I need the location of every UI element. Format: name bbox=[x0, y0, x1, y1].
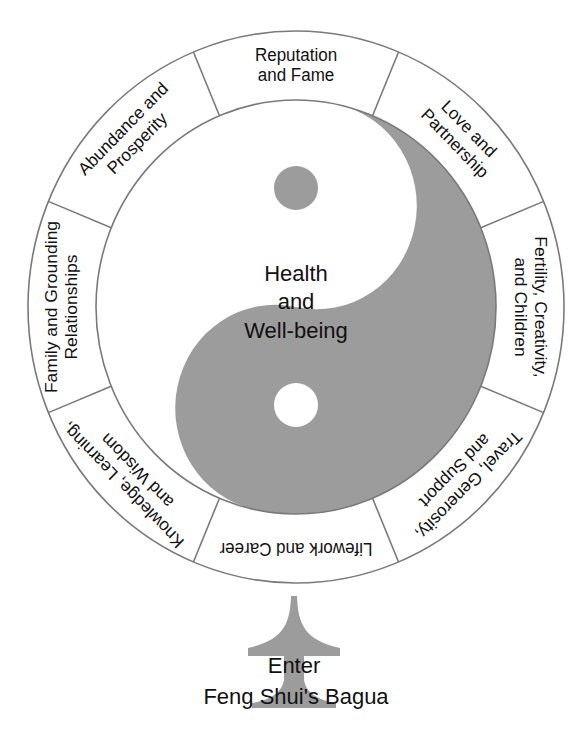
segment-label-line: Knowledge, Learning, bbox=[58, 418, 188, 552]
enter-line-2: Feng Shui's Bagua bbox=[203, 684, 389, 709]
center-label: Health and Well-being bbox=[244, 261, 348, 343]
yin-yang-dark-dot bbox=[274, 166, 318, 210]
segment-abundance: Abundance andProsperity bbox=[74, 78, 186, 194]
segment-label-line: and Children bbox=[511, 257, 531, 356]
segment-divider bbox=[481, 386, 544, 412]
segment-family: Family and GroundingRelationships bbox=[41, 221, 81, 393]
segment-label-line: Relationships bbox=[61, 254, 81, 359]
center-line-2: and bbox=[278, 289, 315, 314]
segment-fertility: Fertility, Creativity,and Children bbox=[511, 236, 551, 377]
segment-lifework: Lifework and Career bbox=[219, 539, 372, 559]
segment-divider bbox=[193, 52, 219, 116]
segment-divider bbox=[193, 498, 219, 562]
segment-label-line: Fertility, Creativity, bbox=[531, 236, 551, 377]
segment-label-line: and Fame bbox=[258, 65, 335, 85]
segment-label-line: Lifework and Career bbox=[219, 539, 372, 559]
center-line-1: Health bbox=[264, 261, 328, 286]
segment-label-line: Reputation bbox=[255, 45, 337, 65]
enter-line-1: Enter bbox=[268, 653, 321, 678]
yin-yang-light-dot bbox=[274, 383, 318, 427]
segment-divider bbox=[481, 201, 544, 227]
segment-label-line: Family and Grounding bbox=[41, 221, 61, 393]
bagua-diagram: Reputationand FameLove andPartnershipFer… bbox=[0, 0, 587, 733]
segment-divider bbox=[373, 52, 399, 116]
segment-reputation: Reputationand Fame bbox=[255, 45, 337, 86]
center-line-3: Well-being bbox=[244, 318, 348, 343]
segment-divider bbox=[373, 498, 399, 562]
